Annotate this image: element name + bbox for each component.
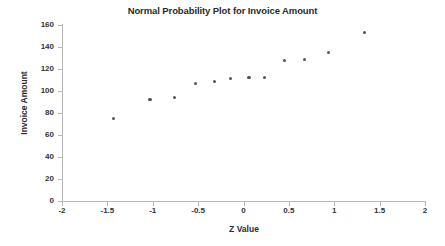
y-axis-tick-label: 160: [20, 21, 54, 29]
x-axis-tick-label: -2: [42, 206, 82, 215]
y-axis-tick-label-wrap: 160: [16, 21, 54, 29]
x-axis-tick-label: 0.5: [269, 206, 309, 215]
x-axis-tick-label: 0: [224, 206, 264, 215]
data-point: [303, 58, 306, 61]
x-axis-tick-label: -0.5: [178, 206, 218, 215]
y-axis-tick-label: 0: [20, 197, 54, 205]
x-axis-tick-label: 1.5: [360, 206, 400, 215]
data-point: [283, 59, 286, 62]
data-point: [213, 80, 216, 83]
x-axis-title: Z Value: [62, 224, 426, 234]
x-axis-tick-label: 2: [405, 206, 445, 215]
y-axis-tick-label-wrap: 0: [16, 197, 54, 205]
y-axis-tick-label: 20: [20, 175, 54, 183]
chart-title: Normal Probability Plot for Invoice Amou…: [0, 5, 445, 16]
normal-probability-plot: Normal Probability Plot for Invoice Amou…: [0, 0, 445, 246]
data-point: [194, 82, 197, 85]
x-axis-tick-label: 1: [314, 206, 354, 215]
x-axis-tick-label: -1: [133, 206, 173, 215]
y-axis-title: Invoice Amount: [19, 43, 29, 163]
plot-area: [62, 25, 425, 201]
x-axis-tick-label: -1.5: [87, 206, 127, 215]
y-axis-tick-label-wrap: 20: [16, 175, 54, 183]
